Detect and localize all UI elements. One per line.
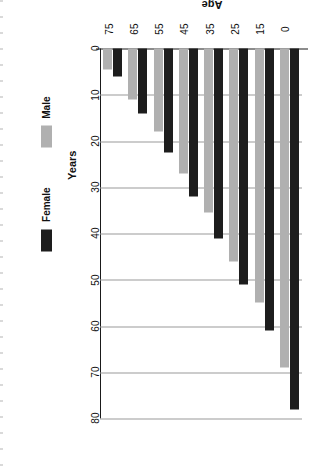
tick-label-text: 55 [154,23,165,34]
category-tick-label: 75 [102,12,120,46]
bar-female-75 [113,48,122,76]
category-tick-label: 25 [228,12,246,46]
value-axis-tick-label: 40 [88,218,106,248]
value-axis-tick-label: 10 [88,79,106,109]
tick-label-text: 50 [90,274,101,285]
bar-female-55 [164,48,173,152]
category-tick-label: 45 [177,12,195,46]
value-axis-tick-label: 20 [88,126,106,156]
legend-swatch-female [41,229,52,251]
category-axis-title: Age [202,0,223,10]
tick-label-text: 25 [230,23,241,34]
value-axis-tick-label: 60 [88,311,106,341]
value-axis-title: Years [66,150,78,179]
bar-male-0 [280,48,289,367]
legend-swatch-male [41,125,52,147]
tick-label-text: 0 [90,45,101,51]
bar-male-55 [154,48,163,131]
category-tick-label: 15 [253,12,271,46]
value-axis-tick-label: 50 [88,264,106,294]
bar-male-15 [255,48,264,302]
tick-label-text: 45 [179,23,190,34]
bar-female-45 [189,48,198,196]
bar-female-25 [240,48,249,284]
scan-artifact-edge [0,0,3,467]
tick-label-text: 0 [280,26,291,32]
bar-female-35 [214,48,223,238]
category-tick-label: 55 [152,12,170,46]
value-axis-tick-label: 70 [88,357,106,387]
category-tick-label: 0 [278,12,296,46]
rotated-figure-container: 01020304050607080 015253545556575 Years … [0,0,314,467]
category-tick-label: 35 [203,12,221,46]
tick-label-text: 15 [255,23,266,34]
legend-item-female: Female [41,187,52,250]
bar-male-35 [204,48,213,212]
bar-male-25 [230,48,239,261]
bar-male-45 [179,48,188,173]
tick-label-text: 10 [90,89,101,100]
legend-label: Female [41,187,52,221]
tick-label-text: 80 [90,412,101,423]
tick-label-text: 60 [90,320,101,331]
value-axis-tick-label: 30 [88,172,106,202]
chart-legend: FemaleMale [41,96,52,251]
bar-male-65 [129,48,138,99]
bar-female-0 [290,48,299,409]
bar-chart-figure: 01020304050607080 015253545556575 Years … [0,0,314,467]
tick-label-text: 75 [104,23,115,34]
gridline [100,418,302,419]
bar-female-15 [265,48,274,330]
tick-label-text: 20 [90,135,101,146]
tick-label-text: 70 [90,366,101,377]
legend-item-male: Male [41,96,52,147]
tick-label-text: 40 [90,227,101,238]
value-axis-tick-label: 80 [88,403,106,433]
tick-label-text: 65 [129,23,140,34]
tick-label-text: 35 [205,23,216,34]
gridline [100,372,302,373]
bar-female-65 [139,48,148,113]
tick-label-text: 30 [90,181,101,192]
legend-label: Male [41,96,52,118]
plot-area [100,48,302,418]
category-tick-label: 65 [127,12,145,46]
